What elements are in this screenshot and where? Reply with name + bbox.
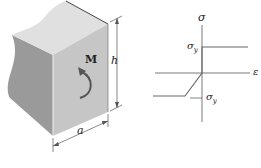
figure-drawing [0,0,261,168]
upper-yield-symbol: σ [187,40,194,51]
moment-label: M [85,54,97,65]
lower-yield-symbol: σ [206,91,213,102]
epsilon-axis-label: ε [253,67,258,77]
upper-yield-subscript: y [194,46,198,54]
sigma-axis-label: σ [198,12,206,23]
upper-yield-label: σy [187,41,198,54]
width-label: a [77,125,84,136]
lower-yield-subscript: y [213,97,217,105]
height-label: h [111,55,118,66]
lower-yield-label: σy [206,92,217,105]
stress-strain-curve [153,47,248,96]
figure: M h a σ ε σy σy [0,0,261,168]
